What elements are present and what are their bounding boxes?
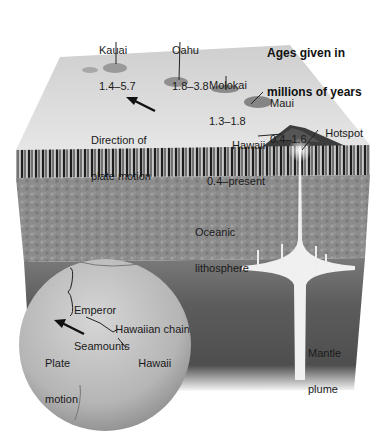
plate-line1: Plate [45, 357, 78, 369]
globe-plate-motion-label: Plate motion [45, 333, 78, 429]
hawaii-label: Hawaii 0.4–present [207, 115, 265, 211]
hawaii-age: 0.4–present [207, 175, 265, 187]
oahu-name: Oahu [172, 44, 209, 56]
hawaii-name: Hawaii [207, 139, 265, 151]
molokai-name: Molokai [209, 79, 247, 91]
ages-note-line1: Ages given in [267, 47, 362, 60]
maui-name: Maui [270, 97, 307, 109]
plume-label: Mantle plume [308, 323, 341, 419]
kauai-label: Kauai 1.4–5.7 [99, 20, 136, 116]
hotspot-text: Hotspot [325, 127, 363, 139]
plume-line2: plume [308, 383, 341, 395]
hawaiian-chain-text: Hawaiian chain [115, 323, 190, 335]
kauai-age: 1.4–5.7 [99, 80, 136, 92]
globe-hawaii-label: Hawaii [126, 345, 171, 381]
direction-label: Direction of plate motion [91, 110, 151, 206]
maui-label: Maui 0.4–1.6 [270, 73, 307, 169]
oahu-label: Oahu 1.8–3.8 [172, 20, 209, 116]
hawaiian-chain-label: Hawaiian chain [103, 311, 190, 347]
lithosphere-label: Oceanic lithosphere [195, 202, 249, 298]
maui-age: 0.4–1.6 [270, 133, 307, 145]
lithosphere-line2: lithosphere [195, 262, 249, 274]
kauai-name: Kauai [99, 44, 136, 56]
plume-line1: Mantle [308, 347, 341, 359]
lithosphere-line1: Oceanic [195, 226, 249, 238]
plate-line2: motion [45, 393, 78, 405]
oahu-age: 1.8–3.8 [172, 80, 209, 92]
hotspot-label: Hotspot [313, 115, 363, 151]
globe-hawaii-text: Hawaii [138, 357, 171, 369]
direction-line1: Direction of [91, 134, 151, 146]
direction-line2: plate motion [91, 170, 151, 182]
hotspot-diagram: Kauai 1.4–5.7 Oahu 1.8–3.8 Ages given in… [0, 0, 383, 442]
